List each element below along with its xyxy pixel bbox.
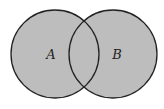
- venn-diagram: A B: [0, 0, 164, 109]
- set-b-label: B: [111, 47, 122, 62]
- set-a-label: A: [45, 47, 55, 62]
